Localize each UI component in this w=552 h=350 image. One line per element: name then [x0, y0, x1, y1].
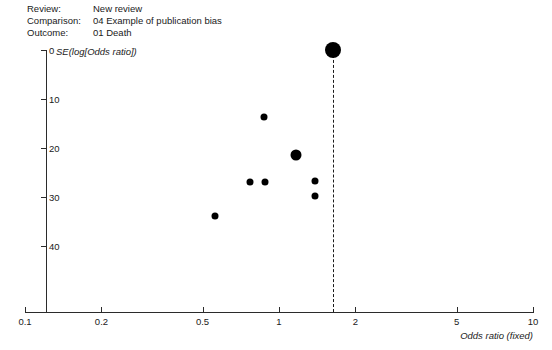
y-tick-mark: [41, 99, 47, 100]
x-tick-mark: [279, 307, 280, 313]
reference-line: [333, 50, 334, 312]
data-point: [291, 149, 302, 160]
y-tick-mark: [41, 50, 47, 51]
x-tick-label: 0.2: [95, 316, 108, 327]
funnel-plot-canvas: 010203040 0.10.20.512510 SE(log[Odds rat…: [0, 0, 552, 350]
y-tick-mark: [41, 148, 47, 149]
data-point: [312, 193, 319, 200]
data-point: [247, 178, 254, 185]
x-tick-mark: [457, 307, 458, 313]
y-tick-label: 40: [49, 241, 60, 252]
y-tick-mark: [41, 197, 47, 198]
data-point: [212, 213, 219, 220]
data-point: [312, 177, 319, 184]
x-tick-label: 5: [454, 316, 459, 327]
data-point: [325, 42, 341, 58]
x-tick-label: 2: [353, 316, 358, 327]
x-tick-mark: [25, 307, 26, 313]
x-tick-label: 1: [276, 316, 281, 327]
data-point: [261, 178, 268, 185]
data-point: [260, 114, 267, 121]
x-tick-label: 0.5: [196, 316, 209, 327]
y-axis-title: SE(log[Odds ratio]): [56, 46, 137, 57]
x-tick-mark: [101, 307, 102, 313]
y-axis-line: [46, 50, 47, 312]
funnel-plot-screen: Review: New review Comparison: 04 Exampl…: [0, 0, 552, 350]
y-tick-mark: [41, 246, 47, 247]
y-tick-label: 0: [49, 45, 54, 56]
x-tick-mark: [203, 307, 204, 313]
x-axis-title: Odds ratio (fixed): [460, 330, 533, 341]
y-tick-label: 20: [49, 143, 60, 154]
x-tick-mark: [355, 307, 356, 313]
x-tick-label: 10: [528, 316, 539, 327]
y-tick-label: 30: [49, 192, 60, 203]
x-tick-mark: [533, 307, 534, 313]
x-tick-label: 0.1: [18, 316, 31, 327]
y-tick-label: 10: [49, 94, 60, 105]
